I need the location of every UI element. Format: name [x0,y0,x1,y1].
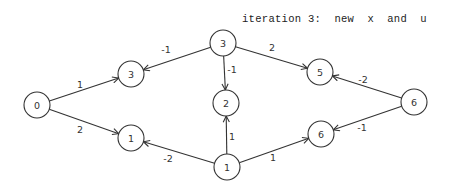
node-n3b: 3 [210,30,236,56]
edge-weight-label: -1 [227,64,236,75]
node-n6a: 6 [308,121,334,147]
node-label: 5 [317,67,323,78]
node-n3a: 3 [118,61,144,87]
node-n5: 5 [307,59,333,85]
node-label: 3 [220,38,226,49]
edge-weight-label: 1 [270,152,276,163]
edge-n6b-n6a: -1 [333,106,401,133]
edge-n3b-n3a: -1 [143,44,210,70]
edge-arrow-icon [143,142,214,163]
edge-n0-n3a: 1 [49,78,118,101]
edge-arrow-icon [143,47,210,70]
node-label: 6 [411,97,417,108]
edge-weight-label: 2 [269,42,275,53]
node-label: 1 [224,162,230,173]
node-label: 2 [223,98,229,109]
edge-n1b-n1a: -2 [143,142,214,164]
edge-weight-label: 1 [229,131,235,142]
edge-arrow-icon [226,116,227,154]
edge-weight-label: -1 [357,122,366,133]
edge-weight-label: -2 [163,153,172,164]
edge-weight-label: -2 [358,74,367,85]
node-n0: 0 [24,92,50,118]
node-n1b: 1 [214,154,240,180]
edge-arrow-icon [333,106,401,130]
edge-n1b-n6a: 1 [239,138,308,163]
edge-arrow-icon [49,78,118,101]
nodes-layer: 031321566 [24,30,427,180]
node-n1a: 1 [118,125,144,151]
node-label: 1 [128,133,134,144]
node-label: 0 [34,100,40,111]
edge-n3b-n5: 2 [235,42,307,68]
node-label: 3 [128,69,134,80]
edge-n0-n1a: 2 [49,109,118,135]
node-label: 6 [318,129,324,140]
graph-svg: 12-1-12-211-2-1 031321566 [0,0,452,187]
node-n2: 2 [213,90,239,116]
edge-n3b-n2: -1 [224,56,237,90]
edge-arrow-icon [224,56,226,90]
edge-weight-label: 2 [77,124,83,135]
graph-diagram: iteration 3: new x and u 12-1-12-211-2-1… [0,0,452,187]
edge-arrow-icon [49,109,118,133]
node-n6b: 6 [401,89,427,115]
edge-n6b-n5: -2 [332,74,401,98]
edge-n1b-n2: 1 [226,116,235,154]
edge-weight-label: 1 [77,79,83,90]
edge-weight-label: -1 [161,44,170,55]
